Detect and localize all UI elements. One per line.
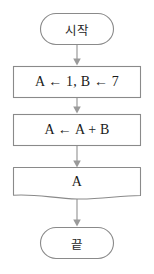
connector-init-to-update <box>73 98 81 114</box>
flowchart-shapes <box>0 0 154 274</box>
node-init-shape <box>14 67 141 98</box>
flowchart-diagram: 시작 A ← 1, B ← 7 A ← A + B A 끝 <box>0 0 154 274</box>
node-output-shape <box>14 168 141 200</box>
connector-update-to-output <box>73 146 81 168</box>
connector-start-to-init <box>73 45 81 66</box>
node-start-shape <box>41 14 114 45</box>
connector-output-to-end <box>73 199 81 227</box>
node-update-shape <box>14 115 141 146</box>
node-end-shape <box>41 228 114 259</box>
